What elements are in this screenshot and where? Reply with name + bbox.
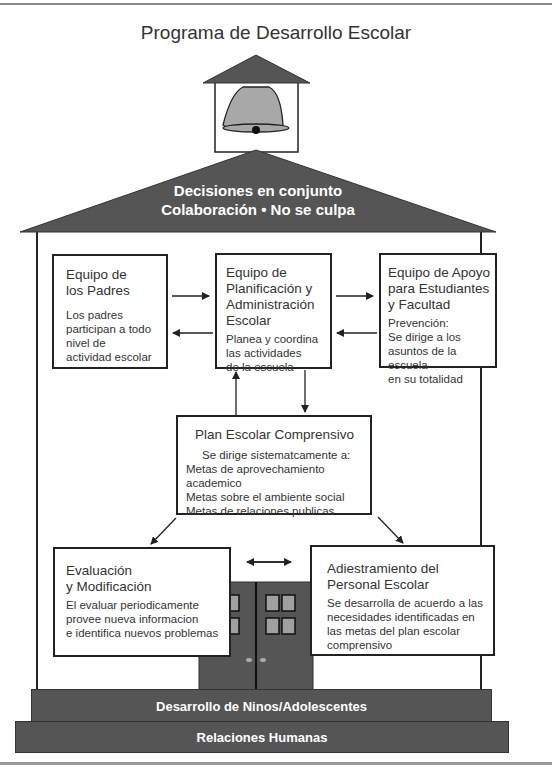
box-text: Prevención: — [388, 316, 495, 330]
box-text: en su totalidad — [388, 372, 495, 386]
box-evaluacion: Evaluación y Modificación El evaluar per… — [53, 547, 231, 657]
box-equipo-padres: Equipo de los Padres Los padres particip… — [52, 254, 168, 369]
box-heading: para Estudiantes — [388, 281, 495, 297]
box-text: El evaluar periodicamente — [66, 598, 229, 612]
box-text: participan a todo — [66, 322, 166, 336]
box-text: Planea y coordina — [226, 332, 330, 346]
box-heading: Escolar — [226, 313, 330, 329]
box-heading: y Facultad — [388, 297, 495, 313]
box-plan-escolar: Plan Escolar Comprensivo Se dirige siste… — [176, 415, 372, 515]
box-item: Metas de aprovechamiento academico — [178, 462, 370, 490]
box-text: Se desarrolla de acuerdo a las — [327, 596, 493, 610]
box-heading: Evaluación — [66, 563, 229, 579]
box-item: Metas de relaciones publicas — [178, 504, 370, 518]
box-text: de la escuela — [226, 360, 330, 374]
box-text: nivel de — [66, 336, 166, 350]
box-intro: Se dirige sistematcamente a: — [178, 448, 370, 462]
box-text: provee nueva informacion — [66, 612, 229, 626]
box-text: las actividades — [226, 346, 330, 360]
box-text: Se dirige a los — [388, 330, 495, 344]
tower-roof — [203, 55, 310, 83]
box-text: necesidades identificadas en — [327, 610, 493, 624]
box-heading: Adiestramiento del — [327, 561, 493, 577]
box-item: Metas sobre el ambiente social — [178, 490, 370, 504]
box-equipo-planificacion: Equipo de Planificación y Administración… — [215, 253, 332, 369]
box-text: actividad escolar — [66, 350, 166, 364]
box-text: las metas del plan escolar — [327, 624, 493, 638]
box-text: asuntos de la escuela — [388, 344, 495, 372]
box-text: comprensivo — [327, 638, 493, 652]
box-heading: y Modificación — [66, 579, 229, 595]
box-heading: Plan Escolar Comprensivo — [178, 427, 370, 443]
roof-line-1: Decisiones en conjunto — [120, 182, 396, 199]
step-lower: Relaciones Humanas — [15, 721, 509, 753]
box-text: e identifica nuevos problemas — [66, 626, 229, 640]
box-heading: Equipo de Apoyo — [388, 265, 495, 281]
step-upper: Desarrollo de Ninos/Adolescentes — [31, 689, 492, 722]
box-text: Los padres — [66, 308, 166, 322]
box-equipo-apoyo: Equipo de Apoyo para Estudiantes y Facul… — [379, 253, 497, 368]
box-heading: Equipo de — [66, 267, 166, 283]
box-heading: Planificación y — [226, 281, 330, 297]
box-heading: Equipo de — [226, 265, 330, 281]
box-heading: Personal Escolar — [327, 577, 493, 593]
box-heading: Administración — [226, 297, 330, 313]
box-heading: los Padres — [66, 283, 166, 299]
box-adiestramiento: Adiestramiento del Personal Escolar Se d… — [310, 545, 495, 656]
roof-line-2: Colaboración • No se culpa — [120, 201, 396, 218]
bottom-rule — [0, 762, 552, 765]
